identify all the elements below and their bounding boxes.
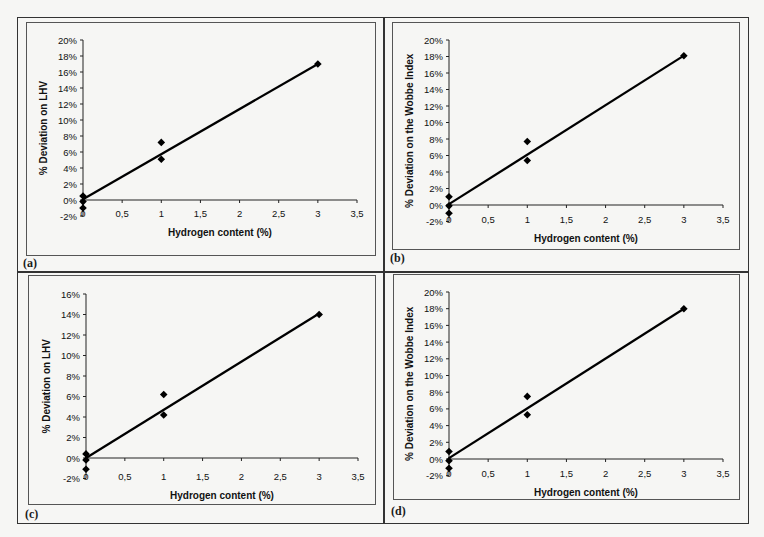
y-axis-title: % Deviation on the Wobbe Index bbox=[404, 306, 415, 461]
x-axis-title: Hydrogen content (%) bbox=[534, 233, 638, 244]
y-tick-label: 14% bbox=[58, 83, 78, 94]
y-tick-label: 4% bbox=[66, 412, 80, 423]
y-tick-label: 4% bbox=[429, 167, 443, 178]
y-tick-label: 8% bbox=[63, 131, 77, 142]
data-point-diamond bbox=[523, 157, 531, 165]
y-tick-label: 16% bbox=[424, 68, 444, 79]
y-tick-label: 0% bbox=[429, 454, 443, 465]
x-axis-title: Hydrogen content (%) bbox=[168, 227, 272, 238]
x-tick-label: 1 bbox=[525, 468, 530, 479]
x-tick-label: 2 bbox=[239, 471, 244, 482]
x-tick-label: 1,5 bbox=[560, 214, 573, 225]
x-tick-label: 2,5 bbox=[274, 471, 287, 482]
y-tick-label: 0% bbox=[429, 200, 443, 211]
x-tick-label: 3 bbox=[681, 468, 686, 479]
y-tick-label: 6% bbox=[429, 150, 443, 161]
x-tick-label: 2,5 bbox=[638, 214, 651, 225]
y-tick-label: 2% bbox=[63, 179, 77, 190]
y-tick-label: 12% bbox=[58, 99, 78, 110]
x-tick-label: 2,5 bbox=[272, 208, 285, 219]
y-tick-label: 18% bbox=[58, 51, 78, 62]
y-tick-label: 6% bbox=[63, 147, 77, 158]
trend-line bbox=[86, 313, 319, 458]
x-tick-label: 2,5 bbox=[638, 468, 651, 479]
y-tick-label: 14% bbox=[424, 337, 444, 348]
y-tick-label: 4% bbox=[63, 163, 77, 174]
y-tick-label: 14% bbox=[61, 309, 81, 320]
y-tick-label: -2% bbox=[63, 473, 80, 484]
y-tick-label: 10% bbox=[58, 115, 78, 126]
y-tick-label: 2% bbox=[429, 437, 443, 448]
y-tick-label: 16% bbox=[424, 320, 444, 331]
y-tick-label: 4% bbox=[429, 420, 443, 431]
data-point-diamond bbox=[523, 393, 531, 401]
data-point-diamond bbox=[445, 448, 453, 456]
y-tick-label: 16% bbox=[61, 289, 81, 300]
x-axis-title: Hydrogen content (%) bbox=[534, 487, 638, 498]
y-tick-label: 8% bbox=[429, 134, 443, 145]
trend-line bbox=[449, 56, 684, 205]
y-tick-label: 6% bbox=[66, 391, 80, 402]
y-tick-label: 20% bbox=[424, 287, 444, 298]
x-axis-title: Hydrogen content (%) bbox=[170, 490, 274, 501]
x-tick-label: 3,5 bbox=[716, 468, 729, 479]
y-tick-label: 20% bbox=[424, 35, 444, 46]
y-tick-label: 12% bbox=[424, 353, 444, 364]
y-tick-label: 0% bbox=[66, 453, 80, 464]
x-tick-label: 0,5 bbox=[482, 214, 495, 225]
y-axis-title: % Deviation on LHV bbox=[41, 339, 52, 434]
x-tick-label: 3 bbox=[316, 471, 321, 482]
x-tick-label: 0,5 bbox=[482, 468, 495, 479]
x-tick-label: 1,5 bbox=[194, 208, 207, 219]
x-tick-label: 0,5 bbox=[118, 471, 131, 482]
y-tick-label: 14% bbox=[424, 84, 444, 95]
x-tick-label: 3 bbox=[681, 214, 686, 225]
y-axis-title: % Deviation on the Wobbe Index bbox=[404, 53, 415, 208]
trend-line bbox=[83, 64, 318, 199]
y-tick-label: 6% bbox=[429, 403, 443, 414]
x-tick-label: 1 bbox=[525, 214, 530, 225]
y-tick-label: 10% bbox=[424, 117, 444, 128]
x-tick-label: 3 bbox=[315, 208, 320, 219]
y-tick-label: 2% bbox=[429, 183, 443, 194]
x-tick-label: 0,5 bbox=[116, 208, 129, 219]
y-tick-label: 2% bbox=[66, 432, 80, 443]
x-tick-label: 3,5 bbox=[351, 471, 364, 482]
x-tick-label: 2 bbox=[237, 208, 242, 219]
y-tick-label: -2% bbox=[60, 211, 77, 222]
data-point-diamond bbox=[445, 193, 453, 201]
y-tick-label: 16% bbox=[58, 67, 78, 78]
y-tick-label: 18% bbox=[424, 51, 444, 62]
x-tick-label: 2 bbox=[603, 214, 608, 225]
y-tick-label: 12% bbox=[61, 330, 81, 341]
y-tick-label: 10% bbox=[61, 350, 81, 361]
y-tick-label: -2% bbox=[426, 470, 443, 481]
trend-line bbox=[449, 309, 684, 458]
x-tick-label: 3,5 bbox=[350, 208, 363, 219]
y-axis-title: % Deviation on LHV bbox=[38, 80, 49, 175]
y-tick-label: -2% bbox=[426, 216, 443, 227]
y-tick-label: 8% bbox=[429, 387, 443, 398]
x-tick-label: 1,5 bbox=[560, 468, 573, 479]
data-point-diamond bbox=[523, 411, 531, 419]
y-tick-label: 12% bbox=[424, 101, 444, 112]
y-tick-label: 0% bbox=[63, 195, 77, 206]
x-tick-label: 3,5 bbox=[716, 214, 729, 225]
y-tick-label: 20% bbox=[58, 35, 78, 46]
x-tick-label: 1 bbox=[159, 208, 164, 219]
x-tick-label: 2 bbox=[603, 468, 608, 479]
y-tick-label: 18% bbox=[424, 303, 444, 314]
data-point-diamond bbox=[157, 139, 165, 147]
x-tick-label: 1 bbox=[161, 471, 166, 482]
x-tick-label: 1,5 bbox=[196, 471, 209, 482]
data-point-diamond bbox=[160, 391, 168, 399]
y-tick-label: 10% bbox=[424, 370, 444, 381]
data-point-diamond bbox=[523, 138, 531, 146]
y-tick-label: 8% bbox=[66, 371, 80, 382]
plots-layer: -2%0%2%4%6%8%10%12%14%16%18%20%00,511,52… bbox=[0, 0, 764, 537]
